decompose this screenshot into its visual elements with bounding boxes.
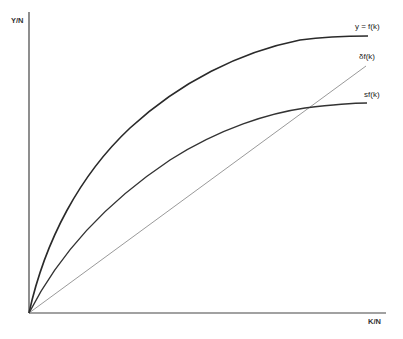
production-function-curve xyxy=(29,36,368,313)
y-axis-label: Y/N xyxy=(11,16,24,25)
solow-growth-chart: Y/N K/N y = f(k) δf(k) sf(k) xyxy=(0,0,403,339)
savings-curve xyxy=(29,103,367,313)
x-axis-label: K/N xyxy=(368,317,381,326)
savings-label: sf(k) xyxy=(364,90,380,99)
depreciation-label: δf(k) xyxy=(359,52,375,61)
production-function-label: y = f(k) xyxy=(355,22,380,31)
